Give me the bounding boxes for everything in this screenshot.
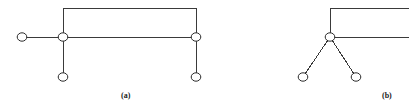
- right-inclined-leg-member: [330, 37, 356, 77]
- nodes-layer: [17, 33, 361, 81]
- left-joint-node: [58, 33, 68, 41]
- left-support-node: [58, 73, 68, 81]
- right-support-node: [191, 73, 201, 81]
- structural-frame-diagram: [0, 0, 409, 109]
- left-inclined-support-node: [298, 73, 308, 81]
- members-layer: [22, 8, 409, 77]
- panel-a-caption: (a): [121, 92, 130, 100]
- left-inclined-leg-member: [303, 37, 330, 77]
- right-inclined-support-node: [351, 73, 361, 81]
- figure-container: (a) (b): [0, 0, 409, 109]
- apex-joint-node: [325, 33, 335, 41]
- left-free-end-node: [17, 33, 27, 41]
- right-joint-node: [191, 33, 201, 41]
- panel-b-caption: (b): [382, 92, 392, 100]
